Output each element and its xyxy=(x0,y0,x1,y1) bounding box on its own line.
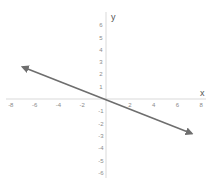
y-tick-label: 2 xyxy=(99,71,103,77)
y-tick-label: 1 xyxy=(99,84,103,90)
y-tick-label: 4 xyxy=(99,47,103,53)
x-axis-label: x xyxy=(200,88,205,98)
coordinate-plane: -8-6-4-22468654321-1-2-3-4-5-6 x y xyxy=(0,0,210,179)
y-tick-label: -2 xyxy=(98,121,104,127)
x-tick-label: 4 xyxy=(152,102,156,108)
y-tick-label: -5 xyxy=(98,158,104,164)
x-tick-label: -6 xyxy=(32,102,38,108)
y-tick-label: -3 xyxy=(98,133,104,139)
x-tick-label: -2 xyxy=(80,102,86,108)
x-tick-label: 2 xyxy=(128,102,132,108)
y-axis-label: y xyxy=(111,12,116,22)
y-tick-label: 5 xyxy=(99,35,103,41)
x-tick-label: -8 xyxy=(8,102,14,108)
y-tick-label: -6 xyxy=(98,170,104,176)
axes xyxy=(6,12,206,178)
series xyxy=(23,67,192,133)
line-series xyxy=(23,67,192,133)
x-tick-label: 8 xyxy=(200,102,204,108)
x-tick-label: -4 xyxy=(56,102,62,108)
y-tick-label: -1 xyxy=(98,108,104,114)
x-tick-label: 6 xyxy=(176,102,180,108)
y-tick-label: 6 xyxy=(99,22,103,28)
y-tick-label: 3 xyxy=(99,59,103,65)
y-tick-label: -4 xyxy=(98,145,104,151)
